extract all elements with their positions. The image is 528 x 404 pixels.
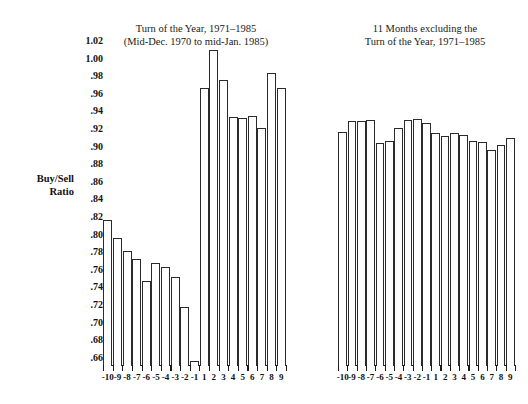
- y-tick-label: .66: [69, 353, 103, 362]
- bar: [357, 121, 366, 366]
- x-tick-label: -1: [423, 372, 431, 382]
- bar: [238, 118, 247, 366]
- bar: [142, 281, 151, 366]
- x-tick-label: -5: [385, 372, 393, 382]
- x-tick-label: 8: [269, 372, 274, 382]
- bar: [376, 143, 385, 366]
- x-tick-label: 2: [443, 372, 448, 382]
- x-tick-label: 7: [489, 372, 494, 382]
- chart-left-turn-of-year: -10-9-8-7-6-5-4-3-2-1123456789: [103, 36, 286, 366]
- x-tick-mark: [286, 365, 287, 371]
- bar: [229, 117, 238, 366]
- x-axis-tick-labels: -10-9-8-7-6-5-4-3-2-1123456789: [103, 365, 286, 379]
- bar: [431, 133, 440, 366]
- x-tick-label: 5: [471, 372, 476, 382]
- x-tick-label: 9: [279, 372, 284, 382]
- bar: [113, 238, 122, 366]
- bar: [267, 73, 276, 366]
- bar: [366, 120, 375, 366]
- x-tick-label: -9: [348, 372, 356, 382]
- bar: [487, 150, 496, 366]
- x-tick-label: 1: [434, 372, 439, 382]
- bar: [450, 133, 459, 366]
- bar: [171, 277, 180, 366]
- x-tick-label: 4: [231, 372, 236, 382]
- x-tick-label: 1: [202, 372, 207, 382]
- x-tick-label: 2: [212, 372, 217, 382]
- bar: [497, 145, 506, 366]
- x-tick-label: -3: [171, 372, 179, 382]
- bar: [209, 50, 218, 366]
- bar: [385, 141, 394, 366]
- bar: [469, 141, 478, 366]
- figure-canvas: Turn of the Year, 1971–1985 (Mid-Dec. 19…: [0, 0, 528, 404]
- x-tick-label: -6: [143, 372, 151, 382]
- bar: [219, 80, 228, 366]
- bar: [422, 123, 431, 366]
- x-tick-label: -7: [367, 372, 375, 382]
- x-tick-label: 4: [462, 372, 467, 382]
- bar: [348, 121, 357, 366]
- bar: [413, 119, 422, 366]
- bar: [161, 267, 170, 366]
- x-tick-label: 5: [240, 372, 245, 382]
- y-tick-label: .94: [69, 106, 103, 115]
- bar: [478, 142, 487, 366]
- x-axis-tick-labels: -10-9-8-7-6-5-4-3-2-1123456789: [338, 365, 515, 379]
- y-tick-label: .92: [69, 124, 103, 133]
- bar: [277, 88, 286, 366]
- y-tick-label: 1.02: [69, 36, 103, 45]
- x-tick-label: -9: [114, 372, 122, 382]
- bar: [394, 128, 403, 366]
- x-tick-label: 7: [260, 372, 265, 382]
- x-tick-label: -5: [152, 372, 160, 382]
- bar: [338, 132, 347, 366]
- y-tick-label: .78: [69, 247, 103, 256]
- bar: [506, 138, 515, 366]
- x-tick-label: 6: [480, 372, 485, 382]
- x-tick-label: 6: [250, 372, 255, 382]
- bar: [404, 120, 413, 366]
- bar-group: [103, 36, 286, 365]
- y-tick-label: .90: [69, 142, 103, 151]
- chart-right-eleven-months: -10-9-8-7-6-5-4-3-2-1123456789: [338, 36, 515, 366]
- bar: [441, 136, 450, 366]
- x-tick-label: -2: [181, 372, 189, 382]
- y-tick-label: .76: [69, 265, 103, 274]
- y-tick-label: .82: [69, 212, 103, 221]
- x-tick-label: -10: [102, 372, 114, 382]
- bar: [180, 307, 189, 366]
- x-tick-label: -4: [162, 372, 170, 382]
- y-axis-tick-labels: .66.68.70.72.74.76.78.80.82.84.86.88.90.…: [65, 0, 103, 404]
- y-tick-label: 1.00: [69, 54, 103, 63]
- y-tick-label: .68: [69, 335, 103, 344]
- x-tick-label: -10: [337, 372, 349, 382]
- x-tick-label: 8: [499, 372, 504, 382]
- bar: [103, 220, 112, 366]
- y-tick-label: .84: [69, 194, 103, 203]
- x-tick-label: 3: [452, 372, 457, 382]
- y-tick-label: .70: [69, 318, 103, 327]
- y-tick-label: .88: [69, 159, 103, 168]
- x-tick-label: -6: [376, 372, 384, 382]
- bar: [200, 88, 209, 366]
- bar-group: [338, 36, 515, 365]
- x-tick-label: -8: [123, 372, 131, 382]
- y-tick-label: .74: [69, 282, 103, 291]
- y-tick-label: .80: [69, 230, 103, 239]
- bar: [132, 259, 141, 366]
- x-tick-label: -2: [413, 372, 421, 382]
- x-tick-label: 3: [221, 372, 226, 382]
- x-tick-label: -3: [404, 372, 412, 382]
- x-tick-label: -8: [358, 372, 366, 382]
- x-tick-label: -1: [191, 372, 199, 382]
- x-tick-label: 9: [508, 372, 513, 382]
- bar: [257, 128, 266, 366]
- y-tick-label: .86: [69, 177, 103, 186]
- x-tick-label: -4: [395, 372, 403, 382]
- bar: [151, 263, 160, 366]
- bar: [123, 251, 132, 366]
- y-tick-label: .98: [69, 71, 103, 80]
- x-tick-label: -7: [133, 372, 141, 382]
- bar: [248, 116, 257, 366]
